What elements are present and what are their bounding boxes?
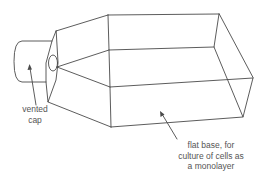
- vented-cap-label-line-2: cap: [18, 115, 52, 126]
- base-arrowhead-icon: [160, 111, 165, 117]
- flat-base-label: flat base, for culture of cells as a mon…: [173, 140, 249, 172]
- box-back-face: [214, 14, 253, 117]
- box-front-edge: [108, 15, 111, 127]
- vented-cap-label-line-1: vented: [18, 104, 52, 115]
- flat-base-label-line-1: flat base, for: [173, 140, 249, 151]
- flat-base-label-line-2: culture of cells as: [173, 151, 249, 162]
- base-arrow-line: [162, 114, 177, 139]
- cap-arrowhead-icon: [28, 64, 33, 70]
- box-mid-edge: [109, 47, 214, 50]
- box-bottom-edge: [111, 117, 243, 127]
- vented-cap-label: vented cap: [18, 104, 52, 125]
- box-base-edge: [110, 78, 253, 87]
- neck-face: [46, 31, 58, 102]
- shoulder-top-edge: [56, 15, 108, 31]
- cap-arrow-line: [30, 68, 36, 105]
- shoulder-low-edge: [57, 67, 110, 87]
- flat-base-label-line-3: a monolayer: [173, 161, 249, 172]
- shoulder-mid-edge: [57, 50, 109, 67]
- shoulder-bottom-edge: [48, 102, 111, 127]
- neck-opening: [49, 55, 58, 71]
- box-top-edge: [108, 14, 219, 15]
